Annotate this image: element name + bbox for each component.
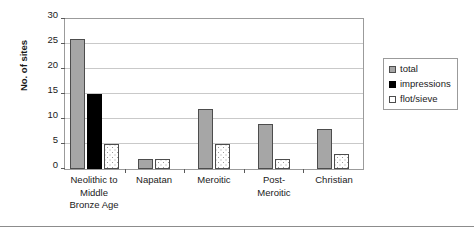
legend-swatch-icon (389, 81, 396, 88)
bar-flot-sieve (104, 144, 119, 169)
bar-flot-sieve (215, 144, 230, 169)
x-tick-label-line: Christian (305, 174, 363, 187)
x-tick-label-line: Meroitic (185, 174, 243, 187)
x-tick-label: Post-Meroitic (244, 174, 304, 212)
y-axis-title: No. of sites (18, 11, 29, 121)
legend-item[interactable]: flot/sieve (389, 94, 451, 104)
bar-groups (65, 19, 363, 169)
bar-flot-sieve (275, 159, 290, 169)
bar-total (198, 109, 213, 169)
legend-item[interactable]: total (389, 64, 451, 74)
x-tick-label-line: Middle (65, 187, 123, 200)
x-tick-label-line: Neolithic to (65, 174, 123, 187)
x-tick-label-line: Bronze Age (65, 199, 123, 212)
bottom-divider (0, 226, 474, 227)
x-tick-label: Neolithic toMiddleBronze Age (64, 174, 124, 212)
bar-group (244, 19, 304, 169)
bar-group (303, 19, 363, 169)
legend-label: flot/sieve (400, 94, 438, 104)
x-tick-label-line: Napatan (125, 174, 183, 187)
x-tick-label: Meroitic (184, 174, 244, 212)
x-tick-label: Napatan (124, 174, 184, 212)
bar-total (258, 124, 273, 169)
legend-label: impressions (400, 79, 451, 89)
x-tick-label: Christian (304, 174, 364, 212)
bar-group (184, 19, 244, 169)
x-tick-label-line: Post- (245, 174, 303, 187)
bar-group (125, 19, 185, 169)
x-tick-label-line: Meroitic (245, 187, 303, 200)
bar-impressions (87, 94, 102, 169)
bar-total (317, 129, 332, 169)
chart-legend: totalimpressionsflot/sieve (383, 58, 458, 110)
legend-label: total (400, 64, 418, 74)
bar-group (65, 19, 125, 169)
bar-total (70, 39, 85, 169)
legend-item[interactable]: impressions (389, 79, 451, 89)
bar-total (138, 159, 153, 169)
bar-chart-figure: No. of sites 051015202530 Neolithic toMi… (0, 0, 474, 235)
legend-swatch-icon (389, 96, 396, 103)
bar-flot-sieve (334, 154, 349, 169)
x-axis-labels: Neolithic toMiddleBronze AgeNapatanMeroi… (64, 174, 364, 212)
bar-flot-sieve (155, 159, 170, 169)
legend-swatch-icon (389, 66, 396, 73)
plot-area: 051015202530 (64, 18, 364, 170)
